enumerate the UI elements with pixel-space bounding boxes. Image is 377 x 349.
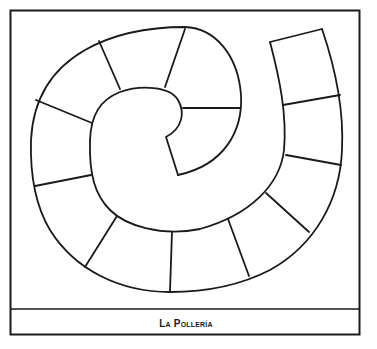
cell-divider <box>85 216 117 267</box>
game-board <box>0 0 377 349</box>
spiral-start-cap <box>270 29 322 42</box>
spiral-inner-edge <box>90 42 285 232</box>
cell-divider <box>99 41 120 89</box>
cell-divider <box>165 29 185 87</box>
cell-divider <box>283 95 340 105</box>
cell-divider <box>266 193 309 232</box>
cell-divider <box>35 175 91 186</box>
cell-divider <box>36 100 92 123</box>
cell-divider <box>228 219 249 276</box>
cell-divider <box>170 232 172 291</box>
board-title: La Pollería <box>12 311 360 335</box>
cell-divider <box>286 155 341 165</box>
spiral-outer-edge <box>31 27 342 292</box>
